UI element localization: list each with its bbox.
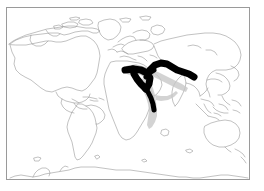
landmass-australia-newzealand: [204, 113, 246, 163]
landmass-antarctica: [10, 166, 248, 178]
landmass-island-misc: [34, 149, 193, 162]
landmass-north-america: [9, 26, 100, 113]
landmass-greenland: [98, 19, 121, 40]
landmass-asia: [154, 33, 241, 120]
world-map-canvas: [0, 0, 264, 191]
landmass-arctic-islands: [54, 16, 151, 29]
distribution-map-figure: [0, 0, 264, 191]
